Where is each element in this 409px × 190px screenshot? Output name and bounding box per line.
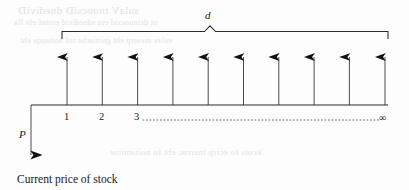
tick-label-3: 3 — [134, 112, 139, 123]
dividend-span-bracket — [62, 26, 388, 39]
figure-container: sulaV tnuocsiD dnediviD ot detnuocsid er… — [0, 0, 409, 190]
infinity-label: ∞ — [379, 113, 386, 123]
figure-caption: Current price of stock — [17, 174, 118, 186]
tick-label-2: 2 — [99, 112, 104, 123]
dividend-label: d — [205, 10, 211, 21]
price-label: P — [19, 129, 26, 140]
timeline-diagram — [0, 0, 409, 190]
tick-label-1: 1 — [64, 112, 69, 123]
dividend-arrow-group — [67, 57, 385, 105]
